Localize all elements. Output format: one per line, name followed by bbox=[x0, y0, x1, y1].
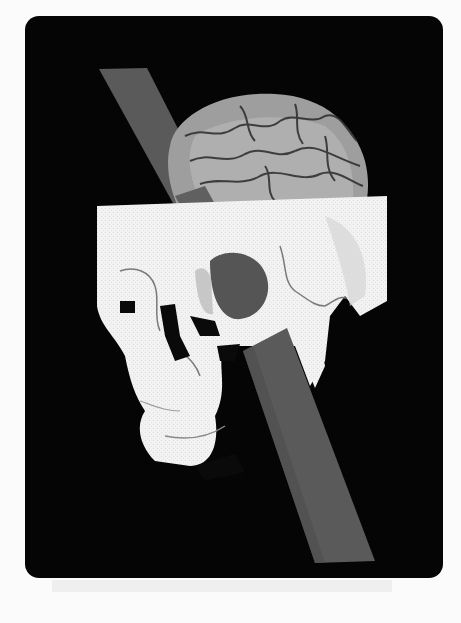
image-frame bbox=[25, 16, 443, 578]
page-shadow bbox=[52, 580, 392, 592]
skull bbox=[97, 196, 387, 481]
skull-rod-illustration bbox=[25, 16, 443, 578]
